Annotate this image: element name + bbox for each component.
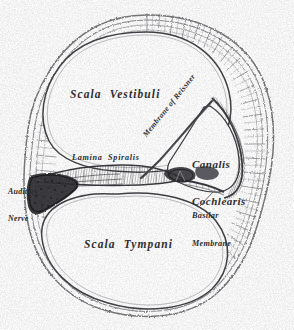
label-scala-vestibuli: Scala Vestibuli: [70, 88, 160, 101]
label-basilar-membrane-line2: Membrane: [192, 239, 231, 248]
cochlea-cross-section-figure: Scala Vestibuli Scala Tympani Canalis Co…: [0, 0, 294, 330]
label-auditory-nerve-line1: Auditory: [8, 188, 39, 197]
label-lamina-spiralis: Lamina Spiralis: [72, 153, 140, 162]
label-basilar-membrane-line1: Basilar: [192, 211, 231, 220]
label-basilar-membrane: Basilar Membrane: [192, 193, 231, 267]
label-canalis-cochlearis-line1: Canalis: [192, 158, 246, 170]
label-scala-tympani: Scala Tympani: [84, 238, 173, 251]
cochlea-engraving: [0, 0, 294, 330]
label-auditory-nerve: Auditory Nerve: [8, 170, 39, 242]
label-auditory-nerve-line2: Nerve: [8, 215, 39, 224]
